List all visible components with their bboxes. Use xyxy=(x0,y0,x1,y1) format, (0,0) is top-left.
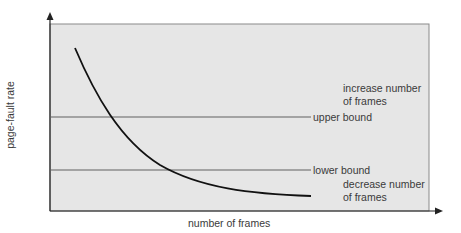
diagram-canvas xyxy=(0,0,461,233)
increase-annotation-line1: increase number xyxy=(343,82,421,94)
increase-annotation-line2: of frames xyxy=(343,95,387,107)
y-axis-label: page-fault rate xyxy=(4,81,16,149)
y-axis-arrow-icon xyxy=(47,12,54,20)
decrease-annotation-line2: of frames xyxy=(343,191,387,203)
decrease-annotation-line1: decrease number xyxy=(343,178,425,190)
x-axis-arrow-icon xyxy=(435,208,443,215)
lower-bound-label: lower bound xyxy=(313,164,370,176)
x-axis-label: number of frames xyxy=(188,217,270,229)
upper-bound-label: upper bound xyxy=(313,111,372,123)
